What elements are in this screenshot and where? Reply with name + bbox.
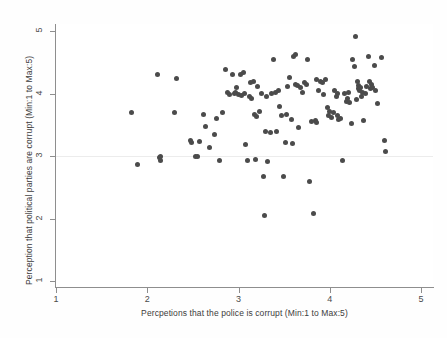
x-tick-label-4: 4 [321, 294, 339, 304]
y-tick-4 [50, 94, 55, 95]
data-point [285, 84, 290, 89]
data-point [304, 82, 309, 87]
data-point [253, 157, 258, 162]
data-point [382, 138, 387, 143]
data-point [234, 85, 239, 90]
x-tick-label-1: 1 [47, 294, 65, 304]
y-tick-3 [50, 156, 55, 157]
data-point [323, 77, 328, 82]
data-point [129, 110, 134, 115]
data-point [259, 91, 264, 96]
x-tick-label-5: 5 [412, 294, 430, 304]
y-tick-label-4: 4 [34, 84, 44, 102]
y-tick-label-2: 2 [34, 209, 44, 227]
data-point [363, 91, 368, 96]
data-point [158, 154, 163, 159]
data-point [158, 158, 163, 163]
data-point [135, 162, 140, 167]
x-tick-3 [239, 288, 240, 293]
data-point [345, 96, 350, 101]
data-point [372, 63, 377, 68]
y-axis-line [55, 24, 56, 287]
x-tick-1 [56, 288, 57, 293]
data-point [279, 113, 284, 118]
data-point [276, 88, 281, 93]
x-tick-4 [330, 288, 331, 293]
data-point [352, 64, 357, 69]
data-point [217, 158, 222, 163]
data-point [271, 57, 276, 62]
data-point [203, 124, 208, 129]
scatter-plot-figure: 12345 12345 Percpetions that the police … [0, 0, 447, 338]
data-point [375, 101, 380, 106]
x-axis-title: Percpetions that the police is corrupt (… [56, 308, 433, 318]
y-tick-5 [50, 31, 55, 32]
data-point [265, 159, 270, 164]
data-point [255, 84, 260, 89]
data-point [373, 88, 378, 93]
data-point [239, 93, 244, 98]
data-point [248, 80, 253, 85]
data-point [274, 129, 279, 134]
data-point [220, 110, 225, 115]
data-point [249, 96, 254, 101]
data-point [281, 174, 286, 179]
gridline-y-3 [56, 156, 433, 157]
data-point [353, 34, 358, 39]
data-point [350, 57, 355, 62]
y-tick-label-1: 1 [34, 271, 44, 289]
data-point [262, 213, 267, 218]
data-point [354, 97, 359, 102]
data-point [383, 149, 388, 154]
y-tick-label-3: 3 [34, 146, 44, 164]
data-point [241, 70, 246, 75]
data-point [172, 110, 177, 115]
data-point [261, 174, 266, 179]
x-tick-5 [421, 288, 422, 293]
y-tick-2 [50, 219, 55, 220]
y-tick-label-5: 5 [34, 21, 44, 39]
data-point [314, 120, 319, 125]
data-point [307, 179, 312, 184]
data-point [230, 72, 235, 77]
data-point [329, 115, 334, 120]
data-point [335, 113, 340, 118]
y-axis-title: Perception that political parties are co… [24, 56, 34, 285]
data-point [290, 141, 295, 146]
y-tick-1 [50, 281, 55, 282]
data-point [197, 139, 202, 144]
data-point [300, 90, 305, 95]
data-point [293, 52, 298, 57]
x-tick-label-3: 3 [230, 294, 248, 304]
data-point [366, 54, 371, 59]
data-point [340, 158, 345, 163]
x-tick-label-2: 2 [138, 294, 156, 304]
data-point [174, 76, 179, 81]
data-point [277, 104, 282, 109]
data-point [346, 90, 351, 95]
data-point [361, 118, 366, 123]
data-point [245, 158, 250, 163]
data-point [269, 91, 274, 96]
x-axis-line [55, 287, 434, 288]
data-point [311, 211, 316, 216]
x-tick-2 [147, 288, 148, 293]
data-point [212, 132, 217, 137]
